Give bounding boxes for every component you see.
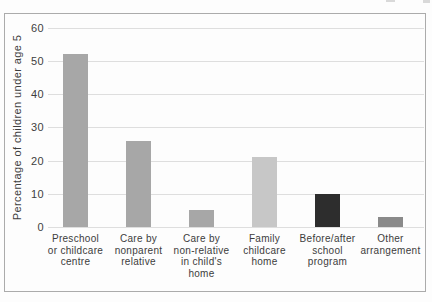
scan-artifact: [386, 0, 395, 2]
bar: [378, 217, 403, 227]
gridline: [48, 161, 424, 162]
gridline: [48, 28, 424, 29]
gridline: [48, 94, 424, 95]
bar: [189, 210, 214, 227]
y-tick-label: 30: [14, 121, 44, 133]
gridline: [48, 194, 424, 195]
y-tick-label: 10: [14, 188, 44, 200]
scanned-figure-page: Percentage of children under age 5 01020…: [0, 0, 432, 302]
scan-artifact: [423, 0, 430, 3]
bar: [252, 157, 277, 227]
bar: [126, 141, 151, 227]
y-tick-label: 60: [14, 22, 44, 34]
gridline: [48, 227, 424, 228]
y-tick-label: 0: [14, 221, 44, 233]
y-tick-label: 20: [14, 155, 44, 167]
y-tick-label: 50: [14, 55, 44, 67]
y-tick-label: 40: [14, 88, 44, 100]
gridline: [48, 61, 424, 62]
bar: [63, 54, 88, 227]
x-category-label: Other arrangement: [353, 233, 429, 256]
bar: [315, 194, 340, 227]
gridline: [48, 127, 424, 128]
